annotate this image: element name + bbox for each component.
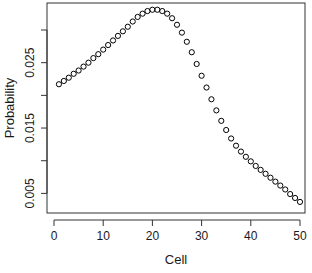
data-point xyxy=(110,38,115,43)
data-point xyxy=(76,68,81,73)
data-point xyxy=(56,82,61,87)
scatter-chart: 0.0050.0150.025 01020304050 Cell Probabi… xyxy=(0,0,312,273)
data-point xyxy=(165,11,170,16)
data-point xyxy=(71,71,76,76)
data-point xyxy=(155,7,160,12)
data-point xyxy=(194,61,199,66)
data-point xyxy=(233,143,238,148)
x-tick-label: 20 xyxy=(146,229,160,243)
y-tick-label: 0.015 xyxy=(23,113,37,143)
x-tick-label: 30 xyxy=(195,229,209,243)
data-point xyxy=(199,73,204,78)
x-tick-label: 50 xyxy=(293,229,307,243)
data-point xyxy=(253,163,258,168)
y-tick-label: 0.025 xyxy=(23,47,37,77)
y-axis-label: Probability xyxy=(2,77,17,138)
data-point xyxy=(91,56,96,61)
data-point xyxy=(96,52,101,57)
data-point xyxy=(189,50,194,55)
data-point xyxy=(179,30,184,35)
x-tick-label: 0 xyxy=(51,229,58,243)
data-point xyxy=(278,183,283,188)
data-point xyxy=(273,179,278,184)
data-point xyxy=(120,29,125,34)
data-point xyxy=(150,7,155,12)
data-point xyxy=(292,195,297,200)
data-point xyxy=(297,199,302,204)
data-point xyxy=(66,75,71,80)
data-point xyxy=(169,16,174,21)
data-point xyxy=(81,64,86,69)
data-point xyxy=(130,19,135,24)
data-point xyxy=(145,8,150,13)
data-point xyxy=(243,154,248,159)
data-point xyxy=(204,85,209,90)
data-point xyxy=(283,187,288,192)
data-point xyxy=(219,118,224,123)
x-axis-label: Cell xyxy=(165,252,188,267)
data-point xyxy=(86,60,91,65)
data-point xyxy=(214,108,219,113)
data-point xyxy=(248,159,253,164)
data-point xyxy=(238,149,243,154)
data-point xyxy=(101,47,106,52)
x-tick-label: 10 xyxy=(97,229,111,243)
data-point xyxy=(224,127,229,132)
data-points xyxy=(56,7,302,204)
data-point xyxy=(160,8,165,13)
data-point xyxy=(268,175,273,180)
x-axis: 01020304050 xyxy=(51,220,307,243)
data-point xyxy=(288,191,293,196)
data-point xyxy=(135,14,140,19)
y-axis: 0.0050.0150.025 xyxy=(23,30,47,208)
data-point xyxy=(140,11,145,16)
data-point xyxy=(184,39,189,44)
data-point xyxy=(258,167,263,172)
data-point xyxy=(229,136,234,141)
data-point xyxy=(106,42,111,47)
data-point xyxy=(61,78,66,83)
data-point xyxy=(263,171,268,176)
x-tick-label: 40 xyxy=(244,229,258,243)
data-point xyxy=(209,97,214,102)
data-point xyxy=(115,33,120,38)
data-point xyxy=(125,24,130,29)
data-point xyxy=(174,22,179,27)
y-tick-label: 0.005 xyxy=(23,178,37,208)
plot-frame xyxy=(47,3,305,213)
